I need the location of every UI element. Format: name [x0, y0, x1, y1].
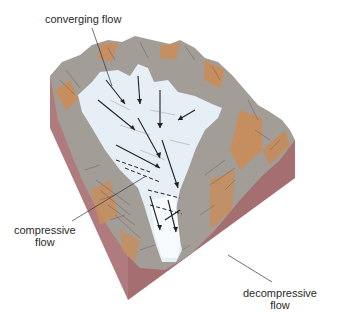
- label-compressive-flow: compressive flow: [14, 224, 76, 248]
- label-decompressive-line2: flow: [243, 299, 317, 311]
- label-decompressive-line1: decompressive: [243, 287, 317, 299]
- label-compressive-line1: compressive: [14, 224, 76, 236]
- label-decompressive-flow: decompressive flow: [243, 287, 317, 311]
- leader-decompressive: [228, 255, 272, 282]
- label-compressive-line2: flow: [14, 236, 76, 248]
- glacier-block-diagram: [0, 0, 337, 333]
- label-converging-text: converging flow: [45, 13, 121, 25]
- label-converging-flow: converging flow: [45, 13, 121, 25]
